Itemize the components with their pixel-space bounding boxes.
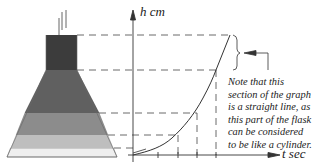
flask-layer-lower xyxy=(11,135,114,148)
flask-neck xyxy=(46,35,77,70)
water-stream-icon xyxy=(59,10,66,36)
flask xyxy=(7,35,117,157)
y-axis-label: h cm xyxy=(140,4,165,20)
section-brace-icon xyxy=(233,35,240,70)
callout-arrow-icon xyxy=(244,51,268,71)
height-time-curve xyxy=(133,35,230,155)
note-line: this part of the flask xyxy=(228,114,312,127)
x-axis-arrow-icon xyxy=(268,153,280,158)
flask-layer-base xyxy=(7,148,117,157)
flask-filling-diagram: h cm t sec Note that this section of the… xyxy=(0,0,320,167)
y-axis-arrow-icon xyxy=(131,10,136,20)
note-line: section of the graph xyxy=(228,89,312,102)
note-line: Note that this xyxy=(228,76,312,89)
annotation-note: Note that this section of the graph is a… xyxy=(228,76,312,152)
flask-layer-middle xyxy=(16,113,108,135)
flask-layer-upper xyxy=(25,70,100,113)
note-line: to be like a cylinder. xyxy=(228,139,312,152)
note-line: can be considered xyxy=(228,126,312,139)
note-line: is a straight line, as xyxy=(228,101,312,114)
